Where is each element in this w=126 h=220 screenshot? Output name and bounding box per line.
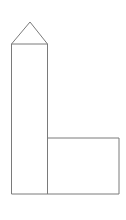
geometric-figure-canvas: Line drawing of an L-shaped polygon topp… [0, 0, 126, 220]
